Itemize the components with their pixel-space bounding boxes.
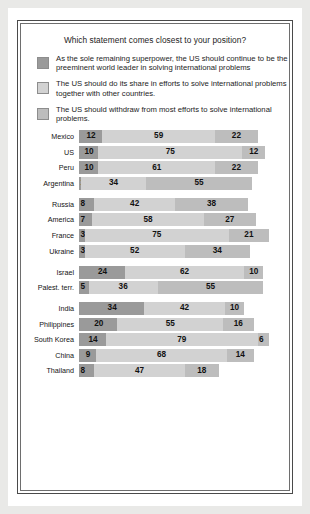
chart-row-label: US (21, 148, 79, 157)
bar-group: Mexico125922US107512Peru106122Argentina1… (21, 130, 289, 190)
bar-segment: 14 (79, 333, 106, 346)
bar-group: Russia84238America75827France37521Ukrain… (21, 198, 289, 258)
bar-segment: 10 (225, 302, 244, 315)
bar-segment: 8 (79, 364, 94, 377)
bar-segment-value: 10 (84, 164, 94, 172)
chart-row: America75827 (21, 213, 289, 226)
bar-segment-value: 34 (213, 247, 222, 255)
bar-segment-value: 16 (234, 320, 243, 328)
stacked-bar: 35234 (79, 245, 250, 258)
stacked-bar: 344210 (79, 302, 244, 315)
bar-segment: 18 (185, 364, 220, 377)
bar-segment: 55 (117, 318, 223, 331)
bar-segment-value: 5 (79, 283, 85, 291)
chart-row-label: Peru (21, 163, 79, 172)
bar-segment-value: 10 (249, 268, 258, 276)
stacked-bar: 37521 (79, 229, 269, 242)
bar-segment-value: 10 (84, 148, 94, 156)
bar-segment-value: 27 (225, 216, 234, 224)
bar-segment-value: 62 (180, 268, 189, 276)
bar-segment: 59 (102, 130, 215, 143)
bar-segment: 10 (244, 266, 263, 279)
bar-segment-value: 7 (79, 216, 85, 224)
legend-item-label: As the sole remaining superpower, the US… (56, 54, 289, 73)
page-title: Which statement comes closest to your po… (21, 35, 289, 45)
bar-segment: 14 (227, 349, 254, 362)
bar-segment: 52 (85, 245, 185, 258)
chart-row-label: Israel (21, 268, 79, 277)
bar-segment-value: 22 (232, 164, 241, 172)
bar-segment: 68 (96, 349, 227, 362)
bar-segment: 9 (79, 349, 96, 362)
bar-segment: 42 (94, 198, 175, 211)
legend-item-label: The US should withdraw from most efforts… (56, 105, 289, 124)
figure-content: Which statement comes closest to your po… (21, 24, 289, 490)
bar-segment: 12 (242, 146, 265, 159)
stacked-bar: 106122 (79, 161, 258, 174)
bar-segment-value: 6 (258, 336, 264, 344)
bar-segment: 20 (79, 318, 117, 331)
chart-row: US107512 (21, 146, 289, 159)
chart-legend: As the sole remaining superpower, the US… (37, 54, 289, 123)
chart-row-label: America (21, 215, 79, 224)
stacked-bar: 96814 (79, 349, 254, 362)
bar-segment-value: 8 (79, 200, 85, 208)
bar-segment-value: 55 (206, 283, 215, 291)
legend-swatch-preeminent-leader (37, 57, 49, 69)
bar-segment: 36 (89, 281, 158, 294)
chart-row: Mexico125922 (21, 130, 289, 143)
bar-segment: 7 (79, 213, 92, 226)
chart-row: Palest. terr.53655 (21, 281, 289, 294)
bar-segment: 34 (81, 177, 146, 190)
bar-segment: 34 (185, 245, 250, 258)
bar-segment-value: 14 (87, 336, 97, 344)
bar-segment-value: 58 (144, 216, 153, 224)
bar-segment-value: 55 (194, 179, 203, 187)
bar-segment-value: 10 (230, 304, 239, 312)
chart-row-label: Russia (21, 200, 79, 209)
chart-row-label: Argentina (21, 179, 79, 188)
bar-segment-value: 55 (166, 320, 175, 328)
chart-row: Russia84238 (21, 198, 289, 211)
bar-segment: 79 (106, 333, 258, 346)
bar-segment-value: 8 (79, 367, 85, 375)
chart-row-label: Palest. terr. (21, 283, 79, 292)
bar-segment: 8 (79, 198, 94, 211)
bar-segment-value: 59 (154, 132, 163, 140)
bar-segment-value: 34 (107, 304, 117, 312)
bar-segment-value: 12 (85, 132, 95, 140)
chart-row-label: China (21, 351, 79, 360)
bar-segment-value: 20 (93, 320, 103, 328)
bar-segment-value: 22 (232, 132, 241, 140)
stacked-bar: 84718 (79, 364, 219, 377)
chart-row-label: Ukraine (21, 247, 79, 256)
figure-panel: Which statement comes closest to your po… (8, 8, 302, 506)
bar-segment: 58 (92, 213, 203, 226)
bar-segment-value: 12 (249, 148, 258, 156)
bar-segment-value: 34 (109, 179, 118, 187)
bar-segment-value: 47 (135, 367, 144, 375)
bar-segment-value: 75 (166, 148, 175, 156)
legend-swatch-do-its-share (37, 82, 49, 94)
chart-row-label: South Korea (21, 335, 79, 344)
legend-item-label: The US should do its share in efforts to… (56, 79, 289, 98)
bar-segment-value: 14 (236, 351, 245, 359)
bar-segment: 61 (98, 161, 215, 174)
stacked-bar: 246210 (79, 266, 263, 279)
stacked-bar: 53655 (79, 281, 263, 294)
bar-segment-value: 18 (197, 367, 206, 375)
chart-row: South Korea14796 (21, 333, 289, 346)
bar-segment: 12 (79, 130, 102, 143)
bar-segment: 21 (229, 229, 269, 242)
legend-item: The US should do its share in efforts to… (37, 79, 289, 98)
stacked-bar: 84238 (79, 198, 248, 211)
chart-row: India344210 (21, 302, 289, 315)
chart-row: Israel246210 (21, 266, 289, 279)
legend-item: As the sole remaining superpower, the US… (37, 54, 289, 73)
bar-segment-value: 42 (180, 304, 189, 312)
chart-row: Peru106122 (21, 161, 289, 174)
bar-segment: 47 (94, 364, 184, 377)
chart-row-label: Thailand (21, 366, 79, 375)
bar-segment: 55 (158, 281, 264, 294)
bar-segment: 5 (79, 281, 89, 294)
